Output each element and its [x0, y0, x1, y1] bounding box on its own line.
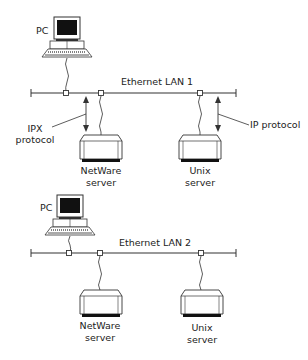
pc-2-icon — [45, 195, 95, 235]
pc-1-icon — [42, 17, 92, 57]
unix-server-2-label-line2: server — [187, 334, 217, 345]
netware-1-cable — [100, 96, 103, 135]
tap-icon — [64, 91, 69, 96]
unix-server-1-label-line2: server — [185, 177, 215, 188]
lan-1-label: Ethernet LAN 1 — [121, 76, 193, 87]
unix-server-1-label-line1: Unix — [189, 165, 210, 176]
lan-2-label: Ethernet LAN 2 — [119, 237, 191, 248]
unix-2-cable — [200, 256, 203, 290]
lan-1 — [31, 17, 249, 162]
ipx-protocol-arrow — [52, 96, 89, 132]
tap-icon — [199, 251, 204, 256]
ip-protocol-label: IP protocol — [250, 119, 300, 130]
lan-2 — [31, 195, 236, 317]
unix-server-2-label-line1: Unix — [191, 322, 212, 333]
ipx-protocol-label-line2: protocol — [16, 134, 55, 145]
tap-icon — [198, 91, 203, 96]
unix-server-1-icon — [179, 135, 221, 162]
ipx-protocol-label-line1: IPX — [27, 123, 42, 134]
ip-protocol-arrow — [215, 96, 249, 132]
netware-server-1-label-line2: server — [86, 177, 116, 188]
pc-1-label: PC — [36, 25, 48, 36]
pc-1-cable — [66, 58, 69, 93]
netware-server-1-icon — [80, 135, 122, 162]
unix-server-2-icon — [181, 290, 223, 317]
pc-2-label: PC — [40, 202, 52, 213]
netware-server-2-icon — [80, 290, 122, 317]
unix-1-cable — [199, 96, 202, 135]
netware-server-2-label-line1: NetWare — [80, 320, 121, 331]
tap-icon — [99, 91, 104, 96]
tap-icon — [67, 251, 72, 256]
network-diagram — [0, 0, 308, 360]
netware-server-1-label-line1: NetWare — [81, 165, 122, 176]
tap-icon — [98, 251, 103, 256]
netware-server-2-label-line2: server — [85, 332, 115, 343]
netware-2-cable — [99, 256, 102, 290]
